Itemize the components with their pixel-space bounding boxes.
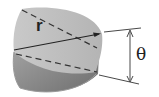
wedge-diagram: r θ [0, 0, 159, 97]
extension-line-top [104, 28, 141, 32]
angle-label: θ [136, 44, 146, 64]
radius-label: r [36, 16, 43, 36]
